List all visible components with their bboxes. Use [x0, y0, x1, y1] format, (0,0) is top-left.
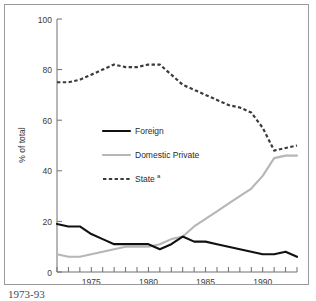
- x-axis-tick-labels: 1975198019851990: [82, 277, 273, 284]
- x-tick-label: 1980: [139, 277, 158, 284]
- legend-label-state: State: [135, 174, 155, 184]
- chart-frame: 100 80 60 40 20 0 % of total 19751980198…: [4, 4, 309, 285]
- x-axis-ticks: [57, 267, 297, 272]
- series-line-state: [57, 65, 297, 151]
- figure-caption: 1973-93: [8, 288, 308, 300]
- y-axis-title: % of total: [17, 127, 27, 163]
- y-axis-tick-labels: 100 80 60 40 20 0: [38, 15, 52, 278]
- x-tick-label: 1985: [196, 277, 215, 284]
- legend-label-domestic-private: Domestic Private: [135, 150, 200, 160]
- x-tick-label: 1975: [82, 277, 101, 284]
- series-line-domestic-private: [57, 156, 297, 257]
- y-tick-label: 20: [43, 217, 53, 227]
- y-tick-label: 60: [43, 116, 53, 126]
- legend-superscript-state: a: [157, 173, 161, 179]
- series-line-foreign: [57, 224, 297, 257]
- y-axis-ticks: [57, 19, 62, 272]
- y-tick-label: 100: [38, 15, 52, 25]
- legend-label-foreign: Foreign: [135, 126, 164, 136]
- figure-container: 100 80 60 40 20 0 % of total 19751980198…: [0, 0, 316, 301]
- y-tick-label: 0: [47, 268, 52, 278]
- x-tick-label: 1990: [253, 277, 272, 284]
- line-chart: 100 80 60 40 20 0 % of total 19751980198…: [5, 5, 308, 284]
- legend: Foreign Domestic Private State a: [103, 126, 200, 184]
- y-tick-label: 40: [43, 166, 53, 176]
- y-tick-label: 80: [43, 65, 53, 75]
